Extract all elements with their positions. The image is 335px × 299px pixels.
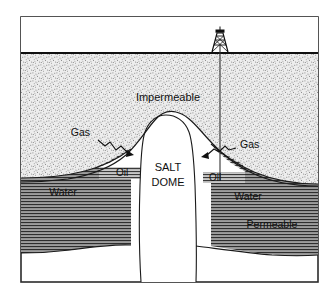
label-permeable: Permeable	[247, 218, 298, 230]
label-water-right: Water	[234, 190, 262, 202]
label-impermeable: Impermeable	[136, 91, 200, 103]
label-salt-dome-line2: DOME	[152, 176, 185, 188]
sky-band	[21, 17, 318, 53]
label-oil-right: Oil	[209, 172, 221, 183]
salt-dome-diagram: Impermeable Gas Gas Oil Oil SALT DOME Wa…	[0, 0, 335, 299]
label-salt-dome-line1: SALT	[155, 161, 182, 173]
figure-root: Impermeable Gas Gas Oil Oil SALT DOME Wa…	[0, 0, 335, 299]
label-gas-left: Gas	[71, 126, 90, 138]
salt-dome	[139, 115, 196, 282]
label-gas-right: Gas	[240, 138, 259, 150]
label-oil-left: Oil	[116, 167, 128, 178]
label-water-left: Water	[49, 186, 77, 198]
